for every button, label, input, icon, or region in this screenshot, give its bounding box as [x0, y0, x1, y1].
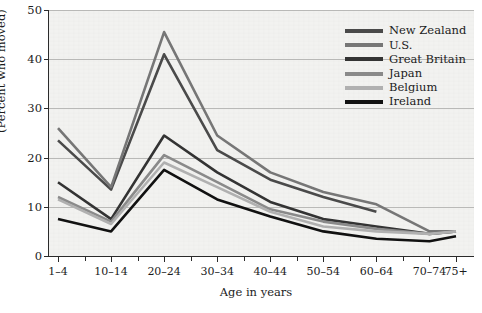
legend-swatch: [345, 72, 383, 76]
legend-swatch: [345, 29, 383, 33]
legend-swatch: [345, 43, 383, 47]
legend-item: Ireland: [345, 95, 475, 109]
legend-swatch: [345, 57, 383, 61]
chart-figure: 01020304050 1–410–1420–2430–3440–4450–54…: [0, 0, 482, 313]
legend-label: New Zealand: [389, 25, 466, 37]
legend-label: Belgium: [389, 82, 437, 94]
legend-item: Japan: [345, 67, 475, 81]
legend-swatch: [345, 100, 383, 104]
legend-label: U.S.: [389, 40, 412, 52]
chart-legend: New ZealandU.S.Great BritainJapanBelgium…: [345, 24, 475, 109]
series-line: [58, 136, 456, 234]
legend-item: Great Britain: [345, 52, 475, 66]
legend-label: Ireland: [389, 96, 431, 108]
legend-item: U.S.: [345, 38, 475, 52]
legend-swatch: [345, 86, 383, 90]
legend-label: Great Britain: [389, 54, 466, 66]
legend-label: Japan: [389, 68, 422, 80]
legend-item: Belgium: [345, 81, 475, 95]
legend-item: New Zealand: [345, 24, 475, 38]
